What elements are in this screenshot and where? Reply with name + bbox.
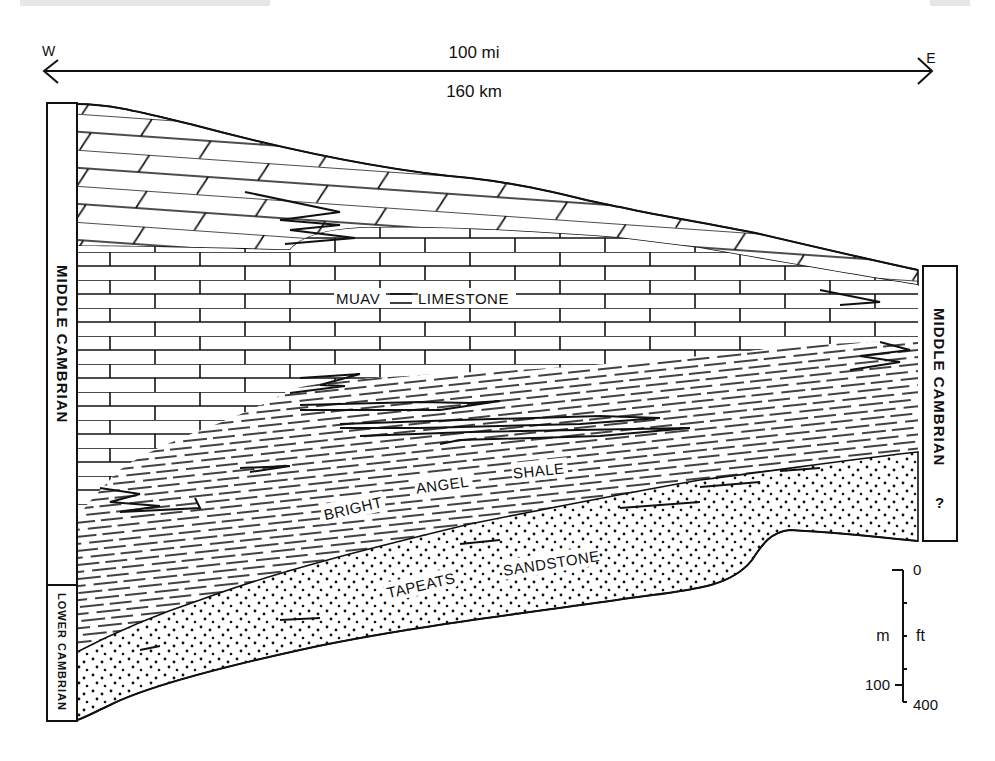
distance-km-label: 160 km (446, 82, 502, 101)
scale-100m-label: 100 (865, 676, 890, 693)
horizontal-scale-bar: W 100 mi 160 km E (42, 43, 936, 101)
scale-zero-label: 0 (913, 561, 921, 578)
scale-ft-unit: ft (916, 627, 925, 644)
right-middle-cambrian-label: MIDDLE CAMBRIAN (931, 308, 948, 466)
cross-section-diagram: W 100 mi 160 km E MIDDLE CAMBRIAN (0, 0, 995, 761)
muav-label: MUAV (336, 290, 380, 307)
scale-m-unit: m (876, 627, 889, 644)
distance-mi-label: 100 mi (448, 43, 499, 62)
vertical-scale: 0 m ft 100 400 (865, 561, 938, 713)
west-label: W (42, 43, 56, 59)
left-middle-cambrian-label: MIDDLE CAMBRIAN (54, 265, 71, 423)
east-label: E (926, 50, 935, 66)
left-age-column: MIDDLE CAMBRIAN LOWER CAMBRIAN (47, 103, 77, 721)
limestone-label: LIMESTONE (418, 290, 509, 307)
right-age-column: MIDDLE CAMBRIAN ? (923, 266, 957, 541)
left-lower-cambrian-label: LOWER CAMBRIAN (56, 593, 68, 711)
right-query-label: ? (935, 494, 945, 511)
scale-400ft-label: 400 (913, 696, 938, 713)
